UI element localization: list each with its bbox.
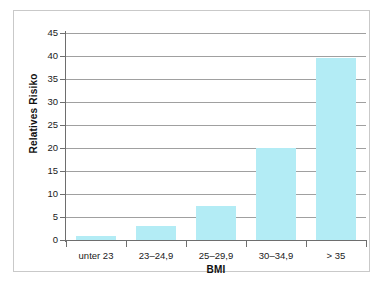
y-tick-mark-35 — [60, 79, 65, 80]
x-tick-label-0: unter 23 — [66, 250, 126, 261]
x-tick-label-2: 25–29,9 — [186, 250, 246, 261]
x-tick-mark-5 — [366, 241, 367, 247]
y-tick-label-10: 10 — [34, 189, 58, 199]
bar-0 — [76, 236, 116, 240]
bar-2 — [196, 206, 236, 241]
y-tick-mark-20 — [60, 148, 65, 149]
x-tick-mark-2 — [186, 241, 187, 247]
y-axis-title: Relatives Risiko — [28, 54, 39, 174]
x-tick-mark-3 — [246, 241, 247, 247]
x-axis-line — [66, 240, 367, 241]
x-tick-label-4: > 35 — [306, 250, 366, 261]
x-tick-mark-1 — [126, 241, 127, 247]
y-tick-label-45: 45 — [34, 28, 58, 38]
x-axis-title: BMI — [66, 264, 366, 275]
chart-figure: 051015202530354045 unter 2323–24,925–29,… — [0, 0, 383, 283]
y-tick-label-5: 5 — [34, 212, 58, 222]
y-tick-mark-5 — [60, 217, 65, 218]
y-tick-mark-30 — [60, 102, 65, 103]
figure-frame: 051015202530354045 unter 2323–24,925–29,… — [13, 10, 370, 272]
y-tick-mark-40 — [60, 56, 65, 57]
x-tick-label-1: 23–24,9 — [126, 250, 186, 261]
y-tick-mark-10 — [60, 194, 65, 195]
bar-1 — [136, 226, 176, 240]
y-tick-mark-25 — [60, 125, 65, 126]
bar-3 — [256, 148, 296, 240]
bars-group — [66, 33, 366, 240]
y-tick-label-0: 0 — [34, 235, 58, 245]
x-tick-mark-4 — [306, 241, 307, 247]
y-tick-mark-45 — [60, 33, 65, 34]
bar-4 — [316, 58, 356, 240]
y-tick-mark-15 — [60, 171, 65, 172]
y-tick-mark-0 — [60, 240, 65, 241]
x-tick-label-3: 30–34,9 — [246, 250, 306, 261]
x-tick-mark-0 — [66, 241, 67, 247]
